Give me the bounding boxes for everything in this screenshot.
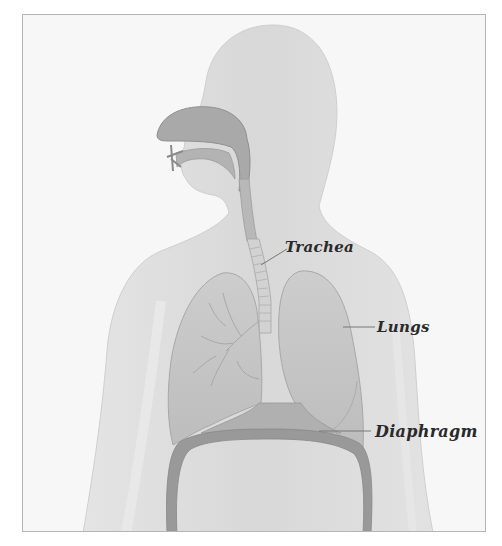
trachea-label: Trachea [285,238,354,256]
lungs-label: Lungs [377,318,430,336]
respiratory-illustration [23,15,486,532]
diaphragm-label: Diaphragm [375,422,478,441]
diagram-frame: Trachea Lungs Diaphragm [22,14,486,532]
